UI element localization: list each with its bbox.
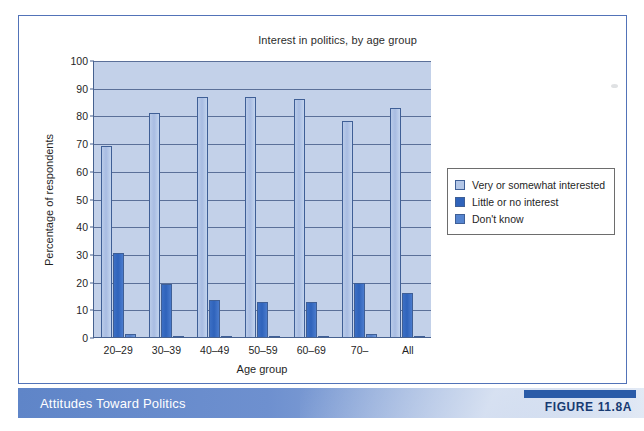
x-tick-label: 60–69	[297, 344, 326, 356]
bar-group	[191, 61, 239, 337]
legend-label: Little or no interest	[472, 196, 558, 208]
legend-item[interactable]: Very or somewhat interested	[455, 176, 605, 193]
chart-title: Interest in politics, by age group	[19, 34, 626, 46]
y-tick-label: 30	[76, 249, 88, 261]
bar	[390, 108, 401, 337]
bar-group	[287, 61, 335, 337]
y-tick-label: 90	[76, 83, 88, 95]
legend-label: Don't know	[472, 213, 524, 225]
y-tick-label: 60	[76, 166, 88, 178]
y-tick-label: 70	[76, 138, 88, 150]
bar	[414, 336, 425, 338]
figure-label: FIGURE 11.8A	[545, 400, 632, 414]
bar	[161, 284, 172, 337]
figure-badge	[524, 390, 636, 398]
y-axis-title: Percentage of respondents	[41, 61, 57, 338]
scan-speck	[611, 84, 618, 88]
x-tick-label: 40–49	[200, 344, 229, 356]
bar	[354, 283, 365, 337]
bar-group	[239, 61, 287, 337]
chart-legend: Very or somewhat interestedLittle or no …	[447, 168, 615, 235]
y-tick-label: 20	[76, 277, 88, 289]
plot-area: 0102030405060708090100 20–2930–3940–4950…	[93, 61, 431, 338]
bar	[209, 300, 220, 337]
bar	[269, 336, 280, 338]
plot-area-wrapper: 0102030405060708090100 20–2930–3940–4950…	[93, 61, 431, 338]
bar	[294, 99, 305, 337]
bar	[257, 302, 268, 337]
x-axis-title: Age group	[93, 363, 431, 375]
bar-group	[384, 61, 432, 337]
source-line	[20, 421, 420, 431]
figure-frame: Interest in politics, by age group Perce…	[18, 15, 627, 384]
bar	[366, 334, 377, 337]
legend-item[interactable]: Don't know	[455, 210, 605, 227]
bar	[149, 113, 160, 337]
legend-swatch	[455, 214, 465, 224]
y-tick-label: 80	[76, 110, 88, 122]
bar	[101, 146, 112, 337]
bar	[125, 334, 136, 337]
y-tick-mark	[90, 338, 94, 339]
x-tick-label: 70–	[351, 344, 369, 356]
y-tick-label: 0	[82, 332, 88, 344]
legend-label: Very or somewhat interested	[472, 179, 605, 191]
x-tick-label: All	[402, 344, 414, 356]
x-tick-label: 20–29	[104, 344, 133, 356]
legend-swatch	[455, 197, 465, 207]
y-tick-label: 50	[76, 194, 88, 206]
bar-group	[94, 61, 142, 337]
bar-group	[335, 61, 383, 337]
bar	[173, 336, 184, 338]
y-axis-title-text: Percentage of respondents	[43, 133, 55, 265]
legend-item[interactable]: Little or no interest	[455, 193, 605, 210]
bar	[402, 293, 413, 337]
x-tick-label: 50–59	[248, 344, 277, 356]
bar	[342, 121, 353, 337]
legend-swatch	[455, 180, 465, 190]
bar	[221, 336, 232, 338]
figure-banner: Attitudes Toward Politics FIGURE 11.8A	[18, 388, 644, 418]
bar	[197, 97, 208, 337]
bar	[306, 302, 317, 337]
bar-group	[142, 61, 190, 337]
banner-title: Attitudes Toward Politics	[40, 396, 186, 411]
bar	[318, 336, 329, 338]
bar	[245, 97, 256, 337]
x-tick-label: 30–39	[152, 344, 181, 356]
y-tick-label: 10	[76, 304, 88, 316]
y-tick-label: 40	[76, 221, 88, 233]
y-tick-label: 100	[70, 55, 88, 67]
bar	[113, 253, 124, 337]
